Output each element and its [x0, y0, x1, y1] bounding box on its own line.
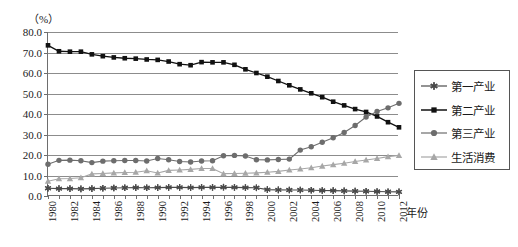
y-tick-label: 30.0 — [23, 129, 42, 141]
x-tick-label: 1992 — [178, 201, 189, 222]
y-tick-label: 40.0 — [23, 108, 42, 120]
x-tick-label: 1980 — [47, 201, 58, 222]
x-tick-label: 1982 — [68, 201, 79, 222]
y-tick-label: 0.0 — [28, 190, 42, 202]
legend-item-label: 第二产业 — [451, 102, 495, 118]
y-tick-label: 60.0 — [23, 67, 42, 79]
x-tick-label: 1986 — [112, 201, 123, 222]
chart-container: （%） 0.010.020.030.040.050.060.070.080.0 … — [0, 0, 518, 247]
x-tick-label: 1998 — [244, 201, 255, 222]
series-square — [46, 43, 402, 130]
x-tick-label: 2004 — [310, 201, 321, 222]
x-tick-label: 2010 — [376, 201, 387, 222]
y-tick-label: 20.0 — [23, 149, 42, 161]
y-tick-label: 80.0 — [23, 26, 42, 38]
circle-marker-icon — [419, 125, 449, 141]
series-layer — [48, 32, 399, 196]
triangle-marker-icon — [419, 149, 449, 165]
x-tick-mark — [399, 195, 400, 199]
series-circle — [45, 101, 401, 167]
plot-area: 0.010.020.030.040.050.060.070.080.0 1980… — [47, 32, 398, 196]
legend-item-1[interactable]: 第一产业 — [415, 74, 509, 98]
legend-item-label: 第一产业 — [451, 78, 495, 94]
x-tick-label: 2002 — [288, 201, 299, 222]
x-tick-label: 2008 — [354, 201, 365, 222]
square-marker-icon — [419, 102, 449, 118]
y-tick-label: 50.0 — [23, 88, 42, 100]
x-tick-label: 1994 — [200, 201, 211, 222]
legend-item-label: 生活消费 — [451, 149, 495, 165]
x-axis-title: 年份 — [406, 204, 428, 220]
legend-item-4[interactable]: 生活消费 — [415, 145, 509, 169]
chart-legend: 第一产业第二产业第三产业生活消费 — [414, 70, 510, 170]
x-tick-label: 2006 — [332, 201, 343, 222]
x-tick-label: 1990 — [156, 201, 167, 222]
legend-item-2[interactable]: 第二产业 — [415, 98, 509, 122]
legend-item-label: 第三产业 — [451, 125, 495, 141]
y-tick-label: 70.0 — [23, 47, 42, 59]
x-tick-label: 1988 — [134, 201, 145, 222]
y-tick-label: 10.0 — [23, 170, 42, 182]
x-tick-label: 1984 — [90, 201, 101, 222]
series-star — [45, 184, 402, 195]
star-marker-icon — [419, 78, 449, 94]
x-tick-label: 1996 — [222, 201, 233, 222]
legend-item-3[interactable]: 第三产业 — [415, 122, 509, 146]
y-axis-unit-label: （%） — [28, 10, 59, 26]
x-tick-label: 2000 — [266, 201, 277, 222]
